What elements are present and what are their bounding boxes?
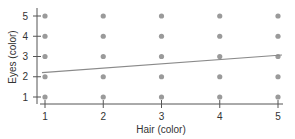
data-point — [159, 34, 164, 39]
y-axis-label: Eyes (color) — [7, 30, 18, 83]
data-points — [42, 13, 280, 99]
data-point — [159, 94, 164, 99]
x-tick-label: 5 — [275, 111, 281, 122]
x-tick-label: 4 — [217, 111, 223, 122]
data-point — [101, 54, 106, 59]
data-point — [101, 13, 106, 18]
data-point — [159, 13, 164, 18]
y-tick-label: 1 — [22, 92, 28, 103]
data-point — [159, 74, 164, 79]
data-point — [217, 13, 222, 18]
y-tick-label: 5 — [22, 11, 28, 22]
data-point — [42, 34, 47, 39]
data-point — [42, 54, 47, 59]
x-axis-label: Hair (color) — [136, 124, 185, 135]
data-point — [101, 94, 106, 99]
data-point — [275, 94, 280, 99]
data-point — [42, 74, 47, 79]
data-point — [217, 94, 222, 99]
data-point — [275, 13, 280, 18]
data-point — [101, 34, 106, 39]
x-ticks: 12345 — [42, 100, 281, 122]
data-point — [217, 74, 222, 79]
data-point — [42, 13, 47, 18]
y-tick-label: 4 — [22, 31, 28, 42]
data-point — [159, 54, 164, 59]
data-point — [217, 54, 222, 59]
data-point — [42, 94, 47, 99]
y-tick-label: 3 — [22, 51, 28, 62]
x-tick-label: 3 — [159, 111, 165, 122]
data-point — [275, 34, 280, 39]
data-point — [101, 74, 106, 79]
y-ticks: 12345 — [22, 11, 41, 103]
x-tick-label: 2 — [100, 111, 106, 122]
x-tick-label: 1 — [42, 111, 48, 122]
scatter-chart: 12345 12345 Hair (color) Eyes (color) — [0, 0, 295, 139]
data-point — [217, 34, 222, 39]
data-point — [275, 74, 280, 79]
y-tick-label: 2 — [22, 71, 28, 82]
